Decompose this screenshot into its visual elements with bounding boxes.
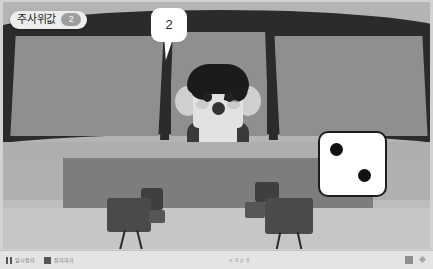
stop-button[interactable]: 정지하기 <box>44 257 74 264</box>
studio-floor-front <box>3 208 430 249</box>
studio-window-pane-right <box>274 36 427 136</box>
camera-right-leg-1 <box>275 232 282 249</box>
dice-sprite[interactable] <box>318 131 387 197</box>
camera-right-lens <box>245 202 265 218</box>
coordinate-readout: x: 0 y: 0 <box>74 257 405 263</box>
stage-toolbar: 일시정지 정지하기 x: 0 y: 0 <box>0 250 433 269</box>
news-anchor-sprite[interactable] <box>179 60 257 152</box>
studio-camera-right <box>241 174 321 249</box>
toolbar-left-group: 일시정지 정지하기 <box>6 257 74 264</box>
entry-stage-window: 주사위값 2 2 일시정지 정지하기 x: 0 y: 0 <box>0 0 433 269</box>
toolbar-right-group <box>405 256 427 264</box>
speech-bubble: 2 <box>151 8 187 42</box>
anchor-hair <box>187 64 249 94</box>
pause-label: 일시정지 <box>15 257 35 264</box>
grid-icon[interactable] <box>405 256 413 264</box>
dice-pip-2 <box>358 169 371 182</box>
pause-button[interactable]: 일시정지 <box>6 257 35 264</box>
studio-window-pane-left <box>10 36 163 136</box>
camera-left-leg-1 <box>118 230 126 249</box>
stop-icon <box>44 257 51 264</box>
nose <box>212 102 225 115</box>
eye-left <box>203 92 212 102</box>
camera-left-leg-2 <box>136 230 144 249</box>
stop-label: 정지하기 <box>54 257 74 264</box>
camera-right-body <box>265 198 313 234</box>
studio-camera-left <box>103 180 173 249</box>
variable-monitor-value: 2 <box>61 13 81 26</box>
fullscreen-icon[interactable] <box>419 256 427 264</box>
dice-pip-1 <box>330 143 343 156</box>
stage-canvas[interactable]: 주사위값 2 2 <box>3 2 430 249</box>
camera-left-body <box>107 198 151 232</box>
camera-left-lens <box>149 210 165 223</box>
variable-monitor-label: 주사위값 <box>17 13 56 26</box>
speech-bubble-text: 2 <box>165 18 172 32</box>
variable-monitor-dice-value[interactable]: 주사위값 2 <box>10 11 87 29</box>
pause-icon <box>6 257 12 264</box>
eye-right <box>225 92 234 102</box>
camera-right-leg-2 <box>297 232 304 249</box>
